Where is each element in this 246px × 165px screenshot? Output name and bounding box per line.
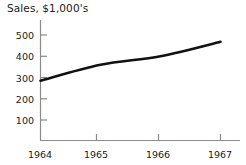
x-axis-label-1964: 1964 bbox=[20, 149, 60, 160]
y-axis-label-100: 100 bbox=[8, 115, 34, 126]
data-series-line bbox=[41, 42, 221, 81]
x-axis-label-1965: 1965 bbox=[76, 149, 116, 160]
plot-area bbox=[0, 0, 246, 165]
x-axis-label-1967: 1967 bbox=[200, 149, 240, 160]
y-axis-label-200: 200 bbox=[8, 94, 34, 105]
chart-figure: Sales, $1,000's 500 400 300 200 100 1964… bbox=[0, 0, 246, 165]
y-axis-label-500: 500 bbox=[8, 30, 34, 41]
y-axis-label-400: 400 bbox=[8, 51, 34, 62]
x-axis-label-1966: 1966 bbox=[138, 149, 178, 160]
y-axis-label-300: 300 bbox=[8, 73, 34, 84]
